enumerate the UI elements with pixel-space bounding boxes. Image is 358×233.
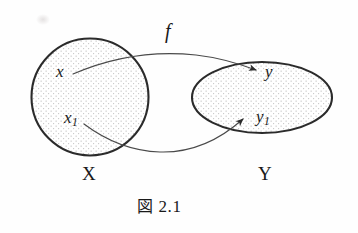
- figure-caption: 図 2.1: [137, 198, 182, 215]
- map-label-f: f: [165, 21, 171, 41]
- figure-caption-kanji: 図: [137, 197, 154, 216]
- element-label-x1-base: x: [64, 108, 72, 127]
- element-label-x1-subscript: 1: [72, 116, 78, 128]
- set-x-shape: [32, 39, 149, 156]
- figure-caption-number: 2.1: [158, 197, 181, 216]
- set-name-x: X: [82, 164, 96, 183]
- element-label-y1-subscript: 1: [264, 115, 270, 127]
- element-label-y1: y1: [256, 108, 270, 127]
- set-name-y: Y: [258, 164, 272, 183]
- element-label-y1-base: y: [256, 107, 264, 126]
- element-label-x1: x1: [64, 109, 78, 128]
- figure-page: f x x1 y y1 X Y 図 2.1: [0, 0, 358, 233]
- element-label-x: x: [56, 63, 64, 80]
- element-label-y: y: [265, 63, 273, 80]
